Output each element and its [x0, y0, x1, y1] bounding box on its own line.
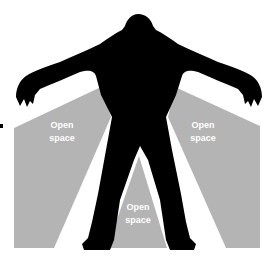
label-open-right-line1: Open	[191, 120, 214, 130]
label-open-center-line1: Open	[126, 202, 149, 212]
label-open-left-line1: Open	[50, 120, 73, 130]
label-open-right-line2: space	[190, 133, 216, 143]
label-open-left-line2: space	[49, 133, 75, 143]
label-open-center-line2: space	[125, 215, 151, 225]
negative-space-diagram: Open space Open space Open space	[0, 0, 273, 261]
edge-mark	[0, 124, 3, 128]
